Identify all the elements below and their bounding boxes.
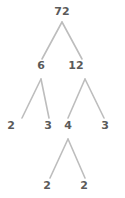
tree-node-n12: 12 (68, 60, 83, 72)
tree-edge (22, 79, 41, 118)
tree-node-n72: 72 (54, 6, 69, 18)
tree-edge (62, 22, 82, 59)
tree-edges-layer (0, 0, 125, 198)
tree-edge (68, 79, 85, 118)
tree-edge (41, 79, 49, 118)
tree-node-n2c: 2 (80, 180, 88, 192)
tree-node-n3a: 3 (44, 120, 52, 132)
tree-edge (42, 22, 62, 59)
factor-tree-diagram: 72612234322 (0, 0, 125, 198)
tree-node-n2b: 2 (43, 180, 51, 192)
tree-edge (50, 139, 68, 178)
tree-node-n6: 6 (37, 60, 45, 72)
tree-node-n4: 4 (64, 120, 72, 132)
tree-node-n2a: 2 (7, 120, 15, 132)
tree-edge (68, 139, 85, 178)
tree-edge (85, 79, 104, 118)
tree-node-n3b: 3 (101, 120, 109, 132)
